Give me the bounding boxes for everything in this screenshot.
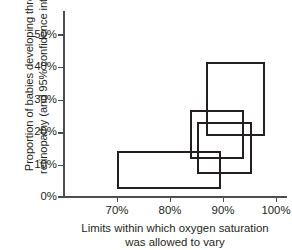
x-tick-80 <box>170 197 171 202</box>
y-tick-10 <box>58 165 63 166</box>
y-tick-label-50: 50% <box>34 28 57 40</box>
x-tick-label-100: 100% <box>256 204 292 216</box>
x-axis-title-line-2: was allowed to vary <box>63 236 287 250</box>
x-tick-label-70: 70% <box>97 204 137 216</box>
x-tick-label-90: 90% <box>203 204 243 216</box>
y-tick-label-10: 10% <box>34 158 57 170</box>
x-axis-title: Limits within which oxygen saturation wa… <box>63 222 287 249</box>
y-tick-50 <box>58 34 63 35</box>
x-axis-title-line-1: Limits within which oxygen saturation <box>63 222 287 236</box>
x-tick-100 <box>276 197 277 202</box>
x-axis-line <box>63 196 287 198</box>
y-tick-40 <box>58 67 63 68</box>
x-tick-70 <box>117 197 118 202</box>
ci-box-study-4 <box>206 62 265 137</box>
x-tick-90 <box>223 197 224 202</box>
y-tick-20 <box>58 132 63 133</box>
plot-area: 50% 40% 30% 20% 10% 0% 70% 80% 90% 100% <box>0 0 292 250</box>
y-tick-30 <box>58 100 63 101</box>
y-tick-label-20: 20% <box>34 125 57 137</box>
y-tick-label-0: 0% <box>41 190 57 202</box>
y-tick-0 <box>58 196 63 197</box>
chart-figure: Proportion of babies developing threshol… <box>0 0 292 250</box>
y-tick-label-30: 30% <box>34 93 57 105</box>
y-tick-label-40: 40% <box>34 60 57 72</box>
y-axis-line <box>63 11 65 197</box>
x-tick-label-80: 80% <box>150 204 190 216</box>
